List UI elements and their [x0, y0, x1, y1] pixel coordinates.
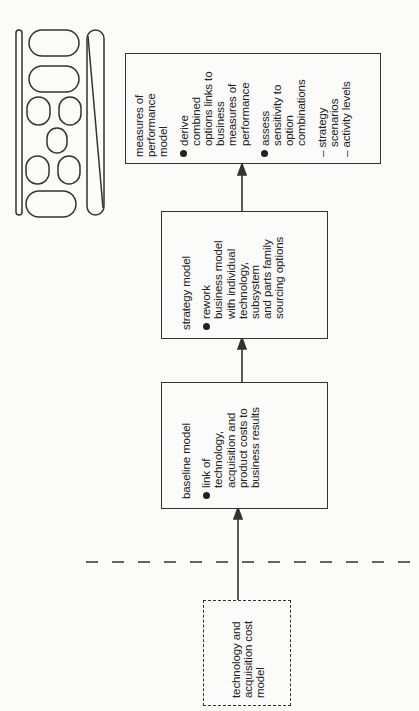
- bullet-text: business results: [249, 379, 261, 499]
- bullet-text: business: [214, 57, 226, 157]
- bullet-text: derive: [178, 115, 190, 146]
- bullet-text: business model: [212, 210, 224, 330]
- sub-item-text: – strategy: [316, 57, 328, 157]
- sub-item-text: – activity levels: [340, 57, 352, 157]
- bullet-text: options links to: [202, 57, 214, 157]
- bullet-text: sourcing options: [273, 210, 285, 330]
- strategy-model-text: strategy model rework business model wit…: [180, 210, 286, 330]
- bullet-text: performance: [239, 57, 251, 157]
- tech-cost-line: technology and: [230, 598, 242, 698]
- baseline-model-text: baseline model link of technology, acqui…: [180, 379, 261, 499]
- measures-title-line: measures of: [133, 57, 145, 157]
- bullet-text: assess: [259, 111, 271, 146]
- bullet-text: rework: [200, 285, 212, 319]
- technology-acquisition-cost-text: technology and acquisition cost model: [230, 598, 267, 698]
- bullet-icon: [203, 492, 210, 499]
- bullet-text: combinations: [295, 57, 307, 157]
- bullet-text: link of: [200, 459, 212, 488]
- tech-cost-line: model: [254, 598, 266, 698]
- bullet-text: measures of: [226, 57, 238, 157]
- bullet-text: subsystem: [249, 210, 261, 330]
- baseline-title: baseline model: [180, 379, 192, 499]
- bullet-icon: [180, 150, 187, 157]
- measures-title-line: model: [157, 57, 169, 157]
- bullet-text: with individual: [225, 210, 237, 330]
- measures-title-line: performance: [145, 57, 157, 157]
- bullet-text: option: [283, 57, 295, 157]
- measures-of-performance-text: measures of performance model derive com…: [133, 57, 352, 157]
- bullet-text: product costs to: [237, 379, 249, 499]
- bullet-text: acquisition and: [225, 379, 237, 499]
- bullet-text: technology,: [212, 379, 224, 499]
- bullet-text: technology,: [237, 210, 249, 330]
- strategy-title: strategy model: [180, 210, 192, 330]
- bullet-icon: [261, 150, 268, 157]
- bullet-text: combined: [190, 57, 202, 157]
- bullet-text: sensitivity to: [271, 57, 283, 157]
- bullet-icon: [203, 323, 210, 330]
- sub-item-text: scenarios: [328, 57, 340, 157]
- tech-cost-line: acquisition cost: [242, 598, 254, 698]
- bullet-text: and parts family: [261, 210, 273, 330]
